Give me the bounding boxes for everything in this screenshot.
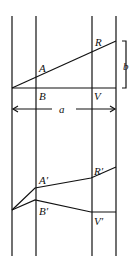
label-a: a (59, 103, 65, 115)
label-V-prime: V′ (94, 215, 104, 227)
label-b: b (123, 60, 129, 72)
label-R-prime: R′ (93, 165, 104, 177)
label-A: A (38, 62, 46, 74)
label-V: V (94, 90, 102, 102)
slanted-line-AR (12, 41, 116, 88)
deformed-line-BV (12, 200, 116, 212)
label-B: B (39, 90, 46, 102)
label-R: R (94, 36, 102, 48)
vector-diagram: A B R V a b A′ B′ R′ V′ (0, 0, 135, 269)
label-A-prime: A′ (38, 174, 49, 186)
label-B-prime: B′ (39, 205, 49, 217)
